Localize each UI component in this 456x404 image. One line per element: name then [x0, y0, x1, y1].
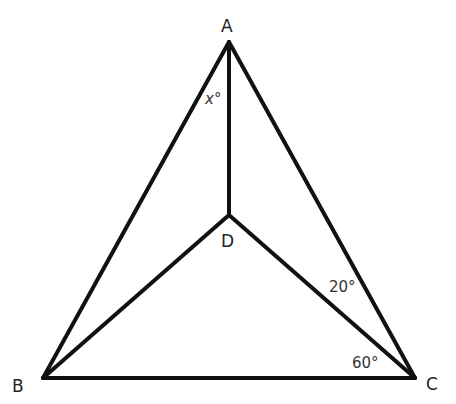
vertex-label-c: C: [426, 374, 438, 394]
segment-ab: [43, 42, 229, 378]
angle-label-20: 20°: [329, 278, 356, 296]
triangle-diagram: A B C D x° 20° 60°: [0, 0, 456, 404]
angle-label-x: x°: [204, 90, 221, 108]
vertex-label-d: D: [221, 231, 234, 251]
segment-cd: [229, 215, 415, 378]
angle-label-60: 60°: [352, 354, 379, 372]
vertex-label-a: A: [221, 16, 233, 36]
vertex-label-b: B: [12, 376, 24, 396]
segment-bd: [43, 215, 229, 378]
segment-ac: [229, 42, 415, 378]
